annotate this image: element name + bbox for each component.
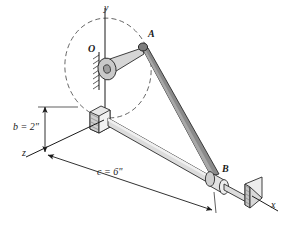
mechanism-figure: y x z O A B b = 2" c = 6" [0,0,288,231]
connecting-rod-AB [141,46,219,176]
crank-arm-OA [96,48,144,82]
support-bracket [90,106,110,133]
y-axis-label: y [104,3,108,13]
dimension-label-c: c = 6" [97,167,122,177]
end-block [245,177,262,208]
crank-pin-A [138,43,147,51]
z-axis-label: z [22,148,26,158]
figure-drawing [0,0,288,231]
point-label-B: B [222,164,229,174]
dimension-label-b: b = 2" [13,122,39,132]
x-axis-label: x [271,200,275,210]
dimension-c [48,155,216,213]
point-label-A: A [148,29,155,39]
dimension-b [38,107,78,152]
point-label-O: O [88,44,95,54]
